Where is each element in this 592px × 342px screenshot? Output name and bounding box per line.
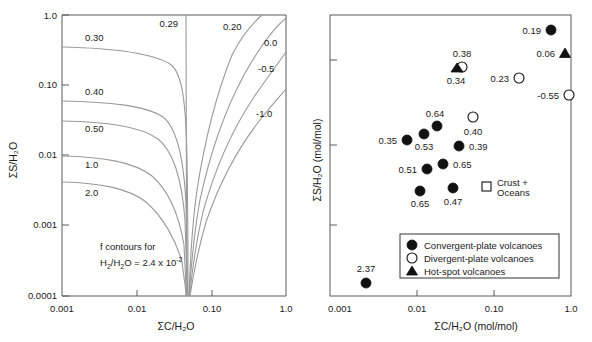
annot-sup: -2 bbox=[176, 256, 182, 263]
left-xtick-label-2: 0.01 bbox=[128, 303, 147, 314]
left-xtick-label-3: 0.10 bbox=[203, 303, 222, 314]
legend-label-divergent: Divergent-plate volcanoes bbox=[424, 253, 534, 264]
contour-label-1.0: 1.0 bbox=[85, 159, 98, 170]
legend-marker-filled-circle-icon bbox=[407, 240, 417, 250]
contour-0.20 bbox=[189, 15, 262, 296]
data-point-label: -0.55 bbox=[537, 90, 559, 101]
data-point-label: 0.35 bbox=[379, 135, 398, 146]
right-panel: ΣS/H₂O (mol/mol) ΣC/H₂O (mol/mol) 0.001 … bbox=[296, 0, 592, 342]
right-y-axis-title: ΣS/H₂O (mol/mol) bbox=[311, 119, 323, 202]
left-annotation-line1: f contours for bbox=[100, 241, 155, 252]
data-point-label: 0.47 bbox=[444, 196, 463, 207]
legend-marker-open-circle-icon bbox=[407, 253, 417, 263]
data-point-label: 0.39 bbox=[469, 141, 488, 152]
left-ytick-label-1: 1.0 bbox=[44, 10, 57, 21]
data-point-marker bbox=[454, 141, 464, 151]
data-point-marker bbox=[361, 278, 371, 288]
left-xtick-label-1: 0.001 bbox=[50, 303, 74, 314]
data-point-label: 0.65 bbox=[411, 198, 430, 209]
contour--0.5 bbox=[190, 52, 287, 296]
data-point-marker bbox=[422, 164, 432, 174]
data-point-marker bbox=[564, 90, 574, 100]
data-point-label: 0.64 bbox=[426, 108, 445, 119]
data-point-marker bbox=[415, 186, 425, 196]
left-annotation-line2: H2/H2O = 2.4 x 10-2 bbox=[100, 256, 183, 270]
annot-mid: /H bbox=[111, 257, 121, 268]
data-point-marker bbox=[432, 121, 442, 131]
data-point-label: 0.65 bbox=[453, 159, 472, 170]
contour-label-0.29: 0.29 bbox=[160, 18, 179, 29]
contour-label-0.20: 0.20 bbox=[223, 21, 242, 32]
right-xtick-label-3: 0.10 bbox=[485, 303, 504, 314]
left-panel: ΣS/H₂O ΣC/H₂O 1.0 0.10 0.01 0.001 0.0001… bbox=[0, 0, 296, 342]
left-xtick-label-4: 1.0 bbox=[279, 303, 292, 314]
data-point-label: 0.06 bbox=[537, 48, 556, 59]
contour-label-0.30: 0.30 bbox=[85, 32, 104, 43]
data-point-marker bbox=[468, 112, 478, 122]
data-point-label: 0.19 bbox=[523, 25, 542, 36]
data-point-marker bbox=[560, 48, 571, 58]
data-point-label: 0.38 bbox=[453, 48, 472, 59]
data-point-marker bbox=[402, 135, 412, 145]
data-point-marker bbox=[448, 183, 458, 193]
contour-label-0.0: 0.0 bbox=[264, 37, 277, 48]
legend-label-hotspot: Hot-spot volcanoes bbox=[424, 266, 506, 277]
annot-post: O = 2.4 x 10 bbox=[124, 257, 176, 268]
left-x-axis-title: ΣC/H₂O bbox=[158, 320, 195, 332]
left-plot-frame bbox=[62, 15, 286, 296]
contour-label--1.0: -1.0 bbox=[256, 108, 272, 119]
contour-1.0 bbox=[62, 156, 187, 296]
right-xtick-label-2: 0.01 bbox=[408, 303, 427, 314]
crust-oceans-marker bbox=[482, 182, 491, 191]
left-y-axis-title: ΣS/H₂O bbox=[7, 142, 19, 178]
data-point-marker bbox=[419, 129, 429, 139]
data-point-marker bbox=[546, 25, 556, 35]
data-point-label: 0.23 bbox=[491, 73, 510, 84]
left-ytick-label-4: 0.001 bbox=[33, 219, 57, 230]
data-point-label: 2.37 bbox=[357, 263, 376, 274]
data-point-label: 0.53 bbox=[415, 141, 434, 152]
data-point-marker bbox=[514, 73, 524, 83]
contour-label-2.0: 2.0 bbox=[85, 187, 98, 198]
contour-2.0 bbox=[62, 182, 186, 296]
crust-oceans-label-line2: Oceans bbox=[497, 187, 530, 198]
contour-label-0.50: 0.50 bbox=[85, 123, 104, 134]
data-point-marker bbox=[438, 159, 448, 169]
data-point-label: 0.51 bbox=[399, 164, 418, 175]
contour-0.50 bbox=[62, 121, 187, 296]
data-point-label: 0.40 bbox=[464, 126, 483, 137]
left-ytick-label-5: 0.0001 bbox=[28, 290, 57, 301]
right-xtick-label-4: 1.0 bbox=[564, 303, 577, 314]
left-ytick-label-3: 0.01 bbox=[39, 149, 58, 160]
contour--1.0 bbox=[190, 89, 286, 296]
data-point-label: 0.34 bbox=[447, 75, 466, 86]
legend-label-convergent: Convergent-plate volcanoes bbox=[424, 240, 543, 251]
right-xtick-label-1: 0.001 bbox=[328, 303, 352, 314]
left-panel-svg: ΣS/H₂O ΣC/H₂O 1.0 0.10 0.01 0.001 0.0001… bbox=[0, 0, 296, 342]
contour-0.0 bbox=[189, 18, 286, 296]
left-ytick-label-2: 0.10 bbox=[39, 79, 58, 90]
contour-label--0.5: -0.5 bbox=[258, 63, 274, 74]
right-x-axis-title: ΣC/H₂O (mol/mol) bbox=[434, 320, 517, 332]
right-panel-svg: ΣS/H₂O (mol/mol) ΣC/H₂O (mol/mol) 0.001 … bbox=[296, 0, 592, 342]
contour-label-0.40: 0.40 bbox=[85, 86, 104, 97]
two-panel-figure: ΣS/H₂O ΣC/H₂O 1.0 0.10 0.01 0.001 0.0001… bbox=[0, 0, 592, 342]
